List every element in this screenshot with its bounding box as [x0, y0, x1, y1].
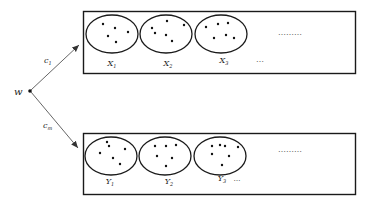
set-y2-label: Y2 [165, 177, 173, 187]
set-x1-ellipse [86, 15, 138, 53]
set-y1-label: Y1 [106, 177, 114, 187]
bottom-box: Y1 Y2 Y3 … ……… [84, 134, 356, 195]
set-x1-label: X1 [107, 59, 117, 69]
set-y1-ellipse [85, 137, 137, 175]
arrow-down [31, 92, 78, 148]
source-node-label: w [14, 86, 23, 97]
top-box-dots: ……… [278, 28, 302, 37]
top-box: X1 X2 X3 ……… … [84, 12, 356, 74]
bottom-box-ellipsis: … [234, 175, 241, 183]
set-x3: X3 [195, 15, 247, 66]
bottom-box-dots: ……… [278, 145, 302, 154]
edge-cm: cm [31, 92, 78, 148]
diagram-canvas: w c1 cm X1 X2 X3 [0, 0, 369, 204]
set-y2-ellipse [139, 137, 191, 175]
set-x1: X1 [86, 15, 138, 69]
edge-c1: c1 [31, 45, 79, 90]
set-x3-ellipse [195, 15, 247, 53]
set-y3-ellipse [194, 137, 246, 175]
set-x2: X2 [140, 15, 192, 69]
set-x2-label: X2 [163, 59, 173, 69]
edge-cm-label: cm [43, 121, 52, 131]
arrow-up [31, 45, 79, 90]
set-y1: Y1 [85, 137, 137, 187]
set-x3-label: X3 [219, 56, 229, 66]
source-node: w [14, 86, 32, 97]
edge-c1-label: c1 [44, 56, 52, 66]
set-y2: Y2 [139, 137, 191, 187]
top-box-ellipsis: … [256, 55, 264, 64]
set-y3-label: Y3 [218, 174, 226, 184]
bottom-box-frame [84, 134, 356, 195]
set-y3: Y3 … [194, 137, 246, 184]
